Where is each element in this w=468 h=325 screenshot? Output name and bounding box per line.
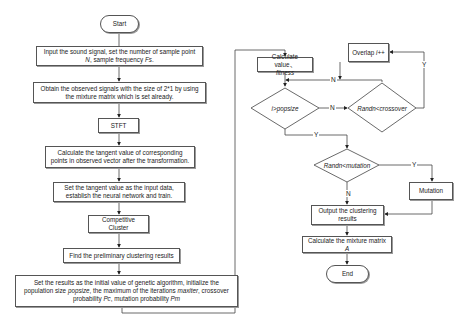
mutation-condition-label: Randn<mutation <box>316 159 378 171</box>
edge-label-mutation-no: N <box>345 190 352 197</box>
tangent-calc-node: Calculate the tangent value of correspon… <box>45 146 195 168</box>
overlap-node: Overlap i++ <box>348 43 389 62</box>
fitness-text-a: Calculate value、 <box>272 53 298 68</box>
edge-label-popsize-yes: Y <box>313 131 319 138</box>
ga-text-b: , the maximum of the iterations <box>90 287 178 294</box>
overlap-text-a: Overlap <box>352 49 376 56</box>
input-text-fs: Fs <box>145 56 152 63</box>
fitness-text-b: fitness <box>276 69 294 76</box>
input-text-a: Input the sound signal, set the number o… <box>44 48 196 55</box>
start-node: Start <box>100 15 139 33</box>
output-results-node: Output the clustering results <box>311 205 384 225</box>
input-text-b: , sample frequency <box>90 56 145 63</box>
input-signal-node: Input the sound signal, set the number o… <box>36 46 203 66</box>
calc-fitness-node: Calculate value、fitness <box>257 57 313 72</box>
mixture-text-a: Calculate the mixture matrix <box>308 237 386 244</box>
edge-label-mutation-yes: Y <box>411 161 417 168</box>
ga-init-node: Set the results as the initial value of … <box>15 275 238 307</box>
ga-text-maxiter: maxiter <box>177 287 198 294</box>
stft-node: STFT <box>98 118 139 133</box>
end-node: End <box>326 265 369 283</box>
input-text-c: . <box>152 56 154 63</box>
edge-label-crossover-yes: Y <box>421 61 427 68</box>
ga-text-pm: Pm <box>171 295 180 302</box>
mutation-node: Mutation <box>409 182 453 200</box>
crossover-condition-label: Randn<crossover <box>350 102 414 114</box>
preliminary-results-node: Find the preliminary clustering results <box>63 248 180 263</box>
overlap-text-b: i++ <box>376 49 385 56</box>
competitive-cluster-node: Competitive Cluster <box>88 215 149 233</box>
edge-label-crossover-no: N <box>330 76 337 83</box>
mixture-matrix-node: Calculate the mixture matrix A <box>302 236 392 253</box>
edge-label-popsize-no: N <box>329 104 336 111</box>
ga-text-d: , mutation probability <box>111 295 171 302</box>
ga-text-pc: Pc <box>103 295 110 302</box>
ga-text-popsize: popsize <box>68 287 90 294</box>
mixture-text-b: A <box>345 245 349 252</box>
observed-signals-node: Obtain the observed signals with the siz… <box>33 82 206 103</box>
neural-network-node: Set the tangent value as the input data,… <box>53 182 185 202</box>
popsize-condition-label: i>popsize <box>258 102 312 114</box>
